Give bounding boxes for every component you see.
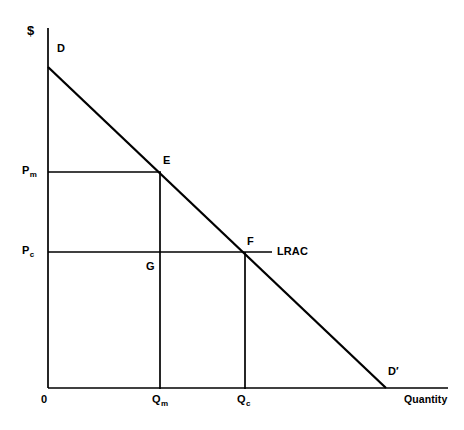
pm-axis-label: Pm bbox=[22, 165, 37, 176]
y-axis-label: $ bbox=[27, 24, 34, 37]
point-f-label: F bbox=[247, 236, 254, 247]
qc-base: Q bbox=[237, 393, 246, 405]
qm-subscript: m bbox=[161, 399, 168, 408]
x-axis-label: Quantity bbox=[404, 394, 447, 405]
point-g-label: G bbox=[146, 261, 155, 272]
qc-axis-label: Qc bbox=[237, 394, 250, 405]
qc-subscript: c bbox=[246, 399, 251, 408]
origin-label: 0 bbox=[41, 394, 47, 405]
lrac-label: LRAC bbox=[277, 246, 308, 257]
demand-end-label: D′ bbox=[388, 366, 399, 377]
pc-base: P bbox=[22, 244, 29, 256]
demand-curve-line bbox=[48, 67, 386, 388]
qm-axis-label: Qm bbox=[152, 394, 168, 405]
point-e-label: E bbox=[163, 155, 170, 166]
natural-monopoly-chart: $ Quantity 0 D D′ E F G LRAC Pm Pc Qm Qc bbox=[0, 0, 464, 430]
pm-base: P bbox=[22, 164, 29, 176]
qm-base: Q bbox=[152, 393, 161, 405]
demand-start-label: D bbox=[57, 43, 65, 54]
pc-axis-label: Pc bbox=[22, 245, 34, 256]
pm-subscript: m bbox=[30, 170, 37, 179]
pc-subscript: c bbox=[30, 250, 35, 259]
